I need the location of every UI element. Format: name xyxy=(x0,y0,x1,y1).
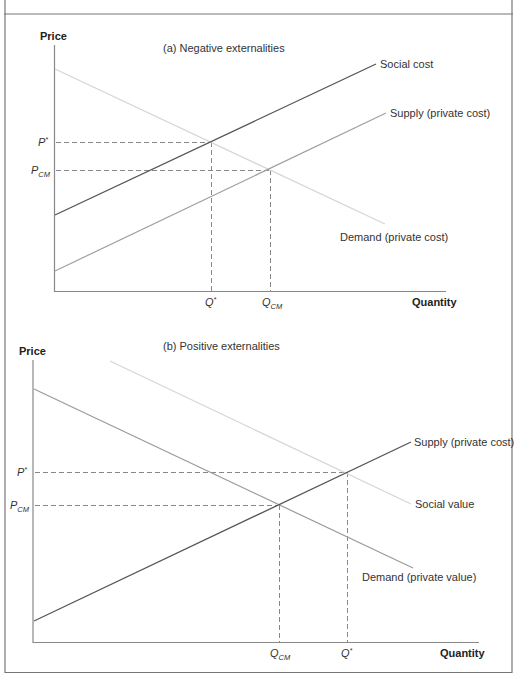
panel-b-y-axis-label: Price xyxy=(19,345,46,357)
panel-a-x-axis-label: Quantity xyxy=(412,296,457,308)
panel-b-social-value-label: Social value xyxy=(415,498,474,510)
panel-a-p-cm-label: PCM xyxy=(31,164,51,179)
panel-b-q-star-label: Q* xyxy=(341,647,353,659)
panel-b-positive-externalities: (b) Positive externalities Price Quantit… xyxy=(10,340,514,662)
panel-b-q-cm-label: QCM xyxy=(270,647,291,662)
figure-canvas: (a) Negative externalities Price Quantit… xyxy=(0,0,517,680)
panel-a-social-cost-line xyxy=(55,64,376,215)
panel-b-social-value-line xyxy=(110,361,411,504)
panel-a-social-cost-label: Social cost xyxy=(380,58,433,70)
panel-a-q-cm-label: QCM xyxy=(262,296,283,311)
externalities-figure: (a) Negative externalities Price Quantit… xyxy=(0,0,517,680)
panel-a-p-star-label: P* xyxy=(38,136,48,148)
panel-b-supply-line xyxy=(34,442,411,621)
panel-a-negative-externalities: (a) Negative externalities Price Quantit… xyxy=(31,30,490,311)
panel-b-x-axis-label: Quantity xyxy=(440,647,485,659)
panel-b-demand-label: Demand (private value) xyxy=(362,571,476,583)
panel-a-q-star-label: Q* xyxy=(205,296,217,308)
panel-a-y-axis-label: Price xyxy=(40,30,67,42)
panel-a-supply-label: Supply (private cost) xyxy=(390,107,490,119)
panel-b-supply-label: Supply (private cost) xyxy=(414,436,514,448)
panel-a-demand-line xyxy=(55,69,385,224)
panel-a-title: (a) Negative externalities xyxy=(163,42,285,54)
panel-b-p-cm-label: PCM xyxy=(10,499,30,514)
panel-b-p-star-label: P* xyxy=(17,466,27,478)
panel-b-title: (b) Positive externalities xyxy=(163,340,280,352)
panel-a-demand-label: Demand (private cost) xyxy=(340,231,448,243)
